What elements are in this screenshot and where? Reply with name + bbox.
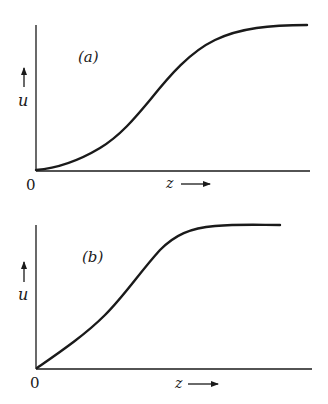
origin-label: 0 <box>30 374 40 392</box>
x-axis-label: z <box>165 175 174 191</box>
panel-label: (b) <box>82 248 103 266</box>
x-axis-label: z <box>174 375 183 391</box>
curve-b <box>37 225 280 368</box>
y-axis-label: u <box>18 285 28 304</box>
panel-a: (a) u 0 z <box>18 25 310 194</box>
y-axis-label: u <box>18 91 28 110</box>
panel-label: (a) <box>78 48 99 66</box>
origin-label: 0 <box>26 176 36 194</box>
curve-a <box>36 25 307 170</box>
figure: (a) u 0 z (b) u 0 z <box>0 0 328 404</box>
panel-b: (b) u 0 z <box>18 225 312 392</box>
